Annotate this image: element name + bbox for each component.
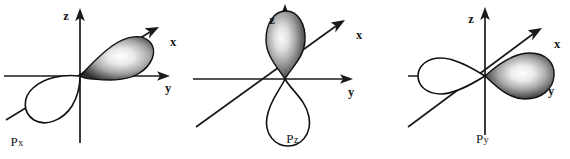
orbital-caption-px-main: P <box>11 134 18 149</box>
orbital-diagram-py: z y x Py <box>375 0 570 159</box>
axis-label-z-pz: z <box>269 13 275 27</box>
orbital-lobe-filled-px <box>80 37 154 80</box>
axis-label-x-px: x <box>170 35 177 49</box>
axis-z-py <box>480 7 490 135</box>
orbital-caption-pz-sub: z <box>294 134 299 145</box>
orbital-caption-px-sub: x <box>18 137 23 148</box>
orbital-caption-px: Px <box>0 134 112 150</box>
orbital-lobe-filled-py <box>485 53 554 99</box>
axis-label-z-py: z <box>468 12 474 26</box>
axis-label-y-py: y <box>548 84 555 98</box>
orbital-diagram-px: z y x Px <box>0 0 190 159</box>
axis-label-x-pz: x <box>356 28 363 42</box>
orbital-lobe-empty-px <box>25 76 80 123</box>
orbital-caption-pz-main: P <box>286 131 293 146</box>
axis-label-y-px: y <box>165 81 172 95</box>
orbital-diagram-pz: z y x Pz <box>190 0 375 159</box>
orbital-caption-py-sub: y <box>483 134 488 145</box>
orbital-caption-py: Py <box>385 131 570 147</box>
axis-label-x-py: x <box>554 37 561 51</box>
p-orbitals-figure: z y x Px <box>0 0 570 159</box>
axis-y-pz <box>193 74 353 84</box>
axis-label-y-pz: y <box>348 85 355 99</box>
orbital-caption-pz: Pz <box>200 131 385 147</box>
orbital-lobe-empty-py <box>418 58 485 94</box>
axis-label-z-px: z <box>63 9 69 23</box>
